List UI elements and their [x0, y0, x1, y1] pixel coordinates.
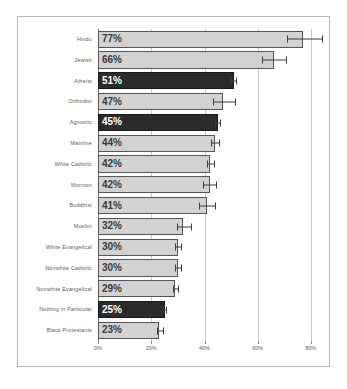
error-bar-cap-high [181, 265, 182, 272]
x-tick-mark [258, 341, 259, 344]
category-label: Muslim [74, 216, 92, 237]
error-bar-cap-high [214, 161, 215, 168]
bar-row: Agnostic45% [98, 112, 331, 133]
error-bar [287, 39, 322, 40]
category-label: Nonwhite Evangelical [36, 279, 92, 300]
bar-row: Nonwhite Catholic30% [98, 258, 331, 279]
bar-value-label: 25% [102, 305, 122, 315]
bar-row: Jewish66% [98, 50, 331, 71]
x-axis: 0%20%40%60%80% [98, 341, 331, 357]
x-tick-mark [98, 341, 99, 344]
bar-value-label: 44% [102, 138, 122, 148]
bar-row: White Catholic42% [98, 154, 331, 175]
error-bar-cap-low [199, 202, 200, 209]
error-bar-cap-low [207, 161, 208, 168]
error-bar-cap-high [166, 306, 167, 313]
error-bar-cap-high [322, 36, 323, 43]
category-label: Black Protestants [47, 320, 92, 341]
error-bar-cap-low [203, 181, 204, 188]
error-bar-cap-low [287, 36, 288, 43]
bar: 51% [98, 72, 234, 89]
error-bar-cap-low [173, 285, 174, 292]
error-bar-cap-high [216, 181, 217, 188]
error-bar-cap-high [235, 98, 236, 105]
error-bar-cap-high [215, 202, 216, 209]
plot-area: Hindu77%Jewish66%Atheist51%Orthodox47%Ag… [98, 29, 331, 341]
error-bar-cap-low [175, 244, 176, 251]
bar: 66% [98, 51, 274, 68]
x-tick-mark [311, 341, 312, 344]
category-label: Nonwhite Catholic [45, 258, 92, 279]
error-bar-cap-high [163, 327, 164, 334]
bar: 25% [98, 301, 165, 318]
error-bar-cap-high [178, 285, 179, 292]
bar: 30% [98, 259, 178, 276]
bar: 32% [98, 218, 183, 235]
category-label: White Evangelical [46, 237, 92, 258]
bar-row: Muslim32% [98, 216, 331, 237]
category-label: White Catholic [54, 154, 92, 175]
bar-row: Black Protestants23% [98, 320, 331, 341]
bar-value-label: 30% [102, 263, 122, 273]
bar: 45% [98, 114, 218, 131]
error-bar [199, 205, 215, 206]
error-bar-cap-low [215, 119, 216, 126]
error-bar-cap-high [181, 244, 182, 251]
x-tick-label: 60% [252, 345, 263, 351]
bar: 29% [98, 280, 175, 297]
bar-value-label: 45% [102, 117, 122, 127]
bar-rows: Hindu77%Jewish66%Atheist51%Orthodox47%Ag… [98, 29, 331, 341]
x-tick-label: 80% [306, 345, 317, 351]
bar-value-label: 41% [102, 201, 122, 211]
bar: 30% [98, 239, 178, 256]
bar: 23% [98, 322, 159, 339]
error-bar-cap-low [211, 140, 212, 147]
error-bar-cap-high [191, 223, 192, 230]
bar: 42% [98, 176, 210, 193]
x-tick-label: 0% [94, 345, 102, 351]
error-bar-cap-low [163, 306, 164, 313]
bar-row: White Evangelical30% [98, 237, 331, 258]
category-label: Agnostic [70, 112, 92, 133]
error-bar-cap-low [177, 223, 178, 230]
x-tick-mark [151, 341, 152, 344]
error-bar-cap-low [157, 327, 158, 334]
error-bar [203, 184, 216, 185]
category-label: Orthodox [68, 91, 92, 112]
category-label: Mainline [70, 133, 92, 154]
bar: 77% [98, 31, 303, 48]
error-bar-cap-low [175, 265, 176, 272]
error-bar [213, 101, 236, 102]
error-bar-cap-high [236, 77, 237, 84]
x-tick-label: 20% [146, 345, 157, 351]
bar-row: Buddhist41% [98, 195, 331, 216]
error-bar-cap-low [213, 98, 214, 105]
category-label: Jewish [74, 50, 92, 71]
category-label: Mormon [71, 175, 92, 196]
bar-row: Hindu77% [98, 29, 331, 50]
bar-value-label: 30% [102, 242, 122, 252]
bar-value-label: 32% [102, 221, 122, 231]
error-bar-cap-low [262, 57, 263, 64]
category-label: Hindu [77, 29, 92, 50]
bar-value-label: 29% [102, 284, 122, 294]
error-bar-cap-high [286, 57, 287, 64]
x-tick-mark [205, 341, 206, 344]
bar: 42% [98, 155, 210, 172]
category-label: Nothing in Particular [39, 299, 92, 320]
bar-row: Nonwhite Evangelical29% [98, 279, 331, 300]
error-bar-cap-low [231, 77, 232, 84]
category-label: Atheist [74, 71, 92, 92]
bar-row: Mormon42% [98, 175, 331, 196]
error-bar [211, 143, 219, 144]
bar-value-label: 23% [102, 325, 122, 335]
error-bar-cap-high [220, 119, 221, 126]
category-label: Buddhist [69, 195, 92, 216]
bar-value-label: 42% [102, 159, 122, 169]
error-bar [262, 60, 286, 61]
chart-figure: Hindu77%Jewish66%Atheist51%Orthodox47%Ag… [17, 16, 330, 367]
bar-value-label: 51% [102, 76, 122, 86]
bar-value-label: 77% [102, 34, 122, 44]
bar-value-label: 66% [102, 55, 122, 65]
error-bar [177, 226, 192, 227]
